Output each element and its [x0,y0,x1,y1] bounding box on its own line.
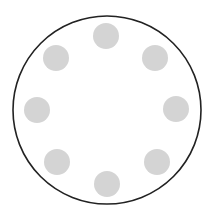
dot-top-right [142,45,168,71]
dots-group [24,23,189,197]
dot-right [163,96,189,122]
dot-bottom-right [144,149,170,175]
dot-top-left [43,45,69,71]
dot-bottom-left [44,149,70,175]
dot-top [93,23,119,49]
dot-bottom [94,171,120,197]
dot-left [24,97,50,123]
circle-diagram [0,0,212,223]
